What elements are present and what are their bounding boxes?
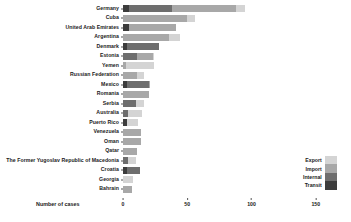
stacked-bar[interactable] bbox=[123, 53, 154, 60]
bar-segment-import[interactable] bbox=[137, 53, 152, 60]
chart-row: Venezuela bbox=[123, 128, 335, 138]
chart-row: Qatar bbox=[123, 147, 335, 157]
x-axis: 050100150 bbox=[123, 198, 335, 210]
stacked-bar[interactable] bbox=[123, 157, 136, 164]
legend-item[interactable]: Internal bbox=[303, 173, 337, 181]
category-label: Germany bbox=[96, 6, 119, 11]
x-axis-tick-label: 50 bbox=[184, 198, 190, 207]
legend-swatch-import bbox=[325, 164, 337, 172]
chart-row: Germany bbox=[123, 4, 335, 14]
stacked-bar[interactable] bbox=[123, 24, 176, 31]
bar-segment-import[interactable] bbox=[123, 138, 141, 145]
bar-segment-export[interactable] bbox=[126, 62, 154, 69]
x-axis-tick-mark bbox=[187, 198, 188, 200]
category-label: The Former Yugoslav Republic of Macedoni… bbox=[6, 158, 119, 163]
bar-segment-export[interactable] bbox=[153, 53, 154, 60]
category-label: Cuba bbox=[106, 16, 119, 21]
category-label: Venezuela bbox=[93, 130, 119, 135]
stacked-bar[interactable] bbox=[123, 72, 144, 79]
category-label: Puerto Rico bbox=[89, 120, 119, 125]
category-label: Argentina bbox=[94, 35, 119, 40]
bar-segment-internal[interactable] bbox=[123, 53, 137, 60]
bar-segment-import[interactable] bbox=[123, 15, 187, 22]
stacked-bar[interactable] bbox=[123, 138, 141, 145]
category-label: Denmark bbox=[96, 44, 119, 49]
bar-segment-export[interactable] bbox=[128, 157, 136, 164]
chart-legend: ExportImportInternalTransit bbox=[303, 156, 337, 190]
legend-label: Import bbox=[306, 166, 322, 172]
category-label: Mexico bbox=[101, 82, 119, 87]
bar-segment-import[interactable] bbox=[123, 186, 132, 193]
category-label: Croatia bbox=[101, 168, 119, 173]
x-axis-tick-label: 150 bbox=[311, 198, 320, 207]
bar-segment-export[interactable] bbox=[169, 34, 179, 41]
stacked-bar[interactable] bbox=[123, 100, 144, 107]
stacked-bar[interactable] bbox=[123, 91, 149, 98]
x-axis-tick-label: 100 bbox=[247, 198, 256, 207]
chart-row: United Arab Emirates bbox=[123, 23, 335, 33]
stacked-bar[interactable] bbox=[123, 119, 138, 126]
stacked-bar[interactable] bbox=[123, 5, 245, 12]
legend-item[interactable]: Export bbox=[303, 156, 337, 164]
category-label: Estonia bbox=[100, 54, 119, 59]
stacked-bar[interactable] bbox=[123, 148, 137, 155]
bar-segment-import[interactable] bbox=[129, 24, 175, 31]
bar-segment-export[interactable] bbox=[136, 100, 144, 107]
bar-segment-import[interactable] bbox=[149, 81, 150, 88]
chart-row: Denmark bbox=[123, 42, 335, 52]
x-axis-title: Number of cases bbox=[36, 201, 79, 207]
legend-label: Transit bbox=[305, 182, 322, 188]
stacked-bar[interactable] bbox=[123, 81, 150, 88]
stacked-bar[interactable] bbox=[123, 129, 141, 136]
bar-segment-export[interactable] bbox=[137, 72, 143, 79]
bar-segment-export[interactable] bbox=[123, 176, 133, 183]
category-label: Oman bbox=[104, 139, 119, 144]
category-label: Russian Federation bbox=[70, 73, 119, 78]
chart-row: Russian Federation bbox=[123, 71, 335, 81]
bar-segment-export[interactable] bbox=[236, 5, 245, 12]
category-label: Bahrain bbox=[99, 187, 119, 192]
stacked-bar[interactable] bbox=[123, 34, 180, 41]
stacked-bar[interactable] bbox=[123, 62, 154, 69]
category-label: Serbia bbox=[103, 101, 119, 106]
category-label: United Arab Emirates bbox=[65, 25, 119, 30]
bar-segment-internal[interactable] bbox=[129, 5, 171, 12]
bar-segment-export[interactable] bbox=[128, 110, 142, 117]
bar-segment-export[interactable] bbox=[127, 119, 139, 126]
bar-segment-import[interactable] bbox=[123, 91, 149, 98]
chart-row: Argentina bbox=[123, 33, 335, 43]
category-label: Romania bbox=[97, 92, 119, 97]
bar-segment-import[interactable] bbox=[123, 34, 169, 41]
legend-label: Export bbox=[305, 157, 321, 163]
legend-swatch-transit bbox=[325, 181, 337, 189]
x-axis-tick-mark bbox=[251, 198, 252, 200]
x-axis-tick-label: 0 bbox=[122, 198, 125, 207]
chart-row: Puerto Rico bbox=[123, 118, 335, 128]
chart-row: Oman bbox=[123, 137, 335, 147]
stacked-bar[interactable] bbox=[123, 176, 133, 183]
bar-segment-internal[interactable] bbox=[127, 43, 159, 50]
stacked-bar[interactable] bbox=[123, 15, 195, 22]
x-axis-tick-mark bbox=[315, 198, 316, 200]
bar-segment-import[interactable] bbox=[123, 72, 137, 79]
stacked-bar[interactable] bbox=[123, 186, 132, 193]
chart-row: Mexico bbox=[123, 80, 335, 90]
bar-segment-import[interactable] bbox=[123, 129, 141, 136]
category-label: Yemen bbox=[102, 63, 119, 68]
bar-segment-import[interactable] bbox=[172, 5, 236, 12]
bar-segment-internal[interactable] bbox=[127, 81, 149, 88]
stacked-bar[interactable] bbox=[123, 110, 142, 117]
legend-item[interactable]: Import bbox=[303, 164, 337, 172]
legend-swatch-internal bbox=[325, 173, 337, 181]
category-label: Georgia bbox=[99, 177, 119, 182]
stacked-bar[interactable] bbox=[123, 167, 140, 174]
legend-item[interactable]: Transit bbox=[303, 181, 337, 189]
bar-segment-import[interactable] bbox=[123, 148, 137, 155]
stacked-bar[interactable] bbox=[123, 43, 159, 50]
chart-row: Serbia bbox=[123, 99, 335, 109]
category-label: Qatar bbox=[105, 149, 119, 154]
bar-segment-export[interactable] bbox=[187, 15, 195, 22]
legend-label: Internal bbox=[303, 174, 322, 180]
bar-segment-internal[interactable] bbox=[127, 167, 140, 174]
bar-segment-internal[interactable] bbox=[123, 100, 136, 107]
